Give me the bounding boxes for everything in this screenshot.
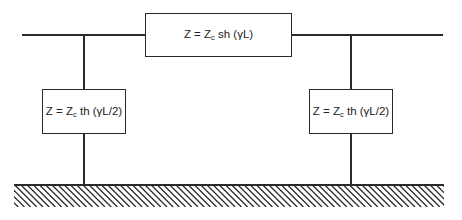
left-shunt-wire-top xyxy=(83,35,85,90)
series-impedance-label: Z = Zc sh (γL) xyxy=(184,28,253,42)
right-shunt-wire-bottom xyxy=(350,133,352,185)
left-shunt-impedance-box: Z = Zc th (γL/2) xyxy=(42,89,126,134)
left-shunt-wire-bottom xyxy=(83,133,85,185)
left-shunt-impedance-label: Z = Zc th (γL/2) xyxy=(46,105,122,119)
right-shunt-wire-top xyxy=(350,35,352,90)
ground-hatch-icon xyxy=(14,185,446,209)
right-shunt-impedance-box: Z = Zc th (γL/2) xyxy=(309,89,393,134)
top-conductor-right xyxy=(290,34,443,36)
series-impedance-box: Z = Zc sh (γL) xyxy=(145,13,292,57)
right-shunt-impedance-label: Z = Zc th (γL/2) xyxy=(313,105,389,119)
